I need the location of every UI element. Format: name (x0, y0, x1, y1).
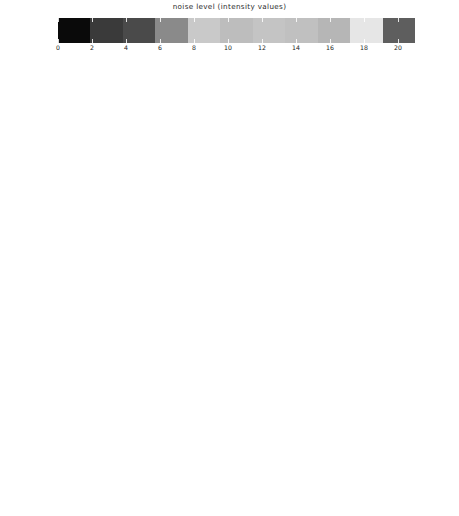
colorbar-tick-10 (398, 18, 399, 22)
colorbar-tick-0 (58, 39, 59, 43)
colorbar-tick-0 (58, 18, 59, 22)
colorbar-tick-7 (296, 18, 297, 22)
colorbar-tick-2 (126, 18, 127, 22)
colorbar-tick-label: 2 (90, 44, 94, 51)
colorbar-tick-label: 0 (56, 44, 60, 51)
colorbar-tick-9 (364, 39, 365, 43)
colorbar-tick-10 (398, 39, 399, 43)
figure-root: noise level (intensity values) 024681012… (0, 0, 459, 516)
colorbar-tick-3 (160, 39, 161, 43)
colorbar-legend: noise level (intensity values) 024681012… (0, 0, 459, 60)
colorbar-tick-4 (194, 18, 195, 22)
colorbar-tick-label: 20 (394, 44, 402, 51)
colorbar-tick-label: 4 (124, 44, 128, 51)
colorbar-tick-7 (296, 39, 297, 43)
colorbar-tick-label: 12 (258, 44, 266, 51)
colorbar-tick-label: 8 (192, 44, 196, 51)
colorbar-tick-6 (262, 18, 263, 22)
colorbar-tick-label: 6 (158, 44, 162, 51)
colorbar-tick-3 (160, 18, 161, 22)
colorbar-tick-8 (330, 39, 331, 43)
colorbar-tick-1 (92, 18, 93, 22)
colorbar-ticks (58, 18, 415, 43)
colorbar-tick-6 (262, 39, 263, 43)
colorbar-tick-5 (228, 18, 229, 22)
colorbar-tick-label: 10 (224, 44, 232, 51)
colorbar-tick-label: 14 (292, 44, 300, 51)
colorbar-tick-5 (228, 39, 229, 43)
colorbar-tick-4 (194, 39, 195, 43)
colorbar-tick-1 (92, 39, 93, 43)
colorbar-tick-labels: 02468101214161820 (58, 44, 415, 56)
colorbar-tick-2 (126, 39, 127, 43)
colorbar-title: noise level (intensity values) (0, 2, 459, 11)
colorbar-tick-9 (364, 18, 365, 22)
colorbar-tick-label: 16 (326, 44, 334, 51)
panel-grid (0, 60, 459, 516)
colorbar-tick-8 (330, 18, 331, 22)
colorbar-tick-label: 18 (360, 44, 368, 51)
